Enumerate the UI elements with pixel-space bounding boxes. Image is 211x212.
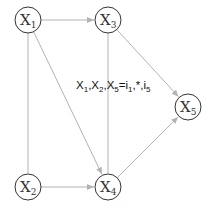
annotation-text: ,*,i <box>133 79 146 91</box>
edge-x1-x4 <box>34 32 102 175</box>
annotation-text: =i <box>119 79 128 91</box>
node-subscript: 4 <box>111 187 117 197</box>
annotation-label: X1,X2,X5=i1,*,i5 <box>76 79 151 94</box>
edge-x4-x5 <box>117 117 178 178</box>
node-subscript: 5 <box>191 107 197 117</box>
node-x2: X2 <box>15 174 41 200</box>
annotation-text: ,X <box>88 79 99 91</box>
node-x1: X1 <box>15 7 41 33</box>
annotation-subscript: 5 <box>146 85 151 94</box>
node-x3: X3 <box>95 7 121 33</box>
annotation-text: ,X <box>103 79 114 91</box>
node-subscript: 2 <box>31 187 37 197</box>
node-subscript: 1 <box>31 20 37 30</box>
node-x5: X5 <box>175 94 201 120</box>
edges-layer <box>28 20 179 187</box>
node-x4: X4 <box>95 174 121 200</box>
graph-canvas: X1X2X3X4X5 X1,X2,X5=i1,*,i5 <box>0 0 211 212</box>
node-subscript: 3 <box>111 20 117 30</box>
